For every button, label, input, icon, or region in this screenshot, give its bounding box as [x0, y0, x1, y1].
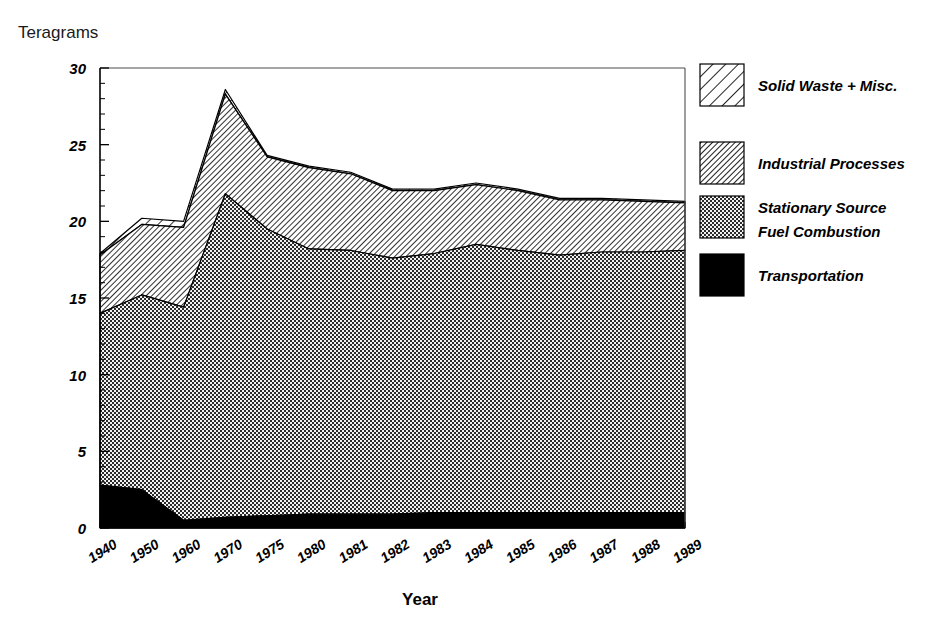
y-tick-label: 25: [68, 137, 86, 154]
x-tick-label: 1989: [670, 536, 705, 566]
x-tick-label: 1985: [503, 536, 538, 566]
x-tick-label: 1984: [461, 536, 496, 566]
x-axis-title: Year: [402, 590, 438, 609]
x-tick-label: 1970: [210, 536, 245, 566]
x-tick-group: 1950: [127, 536, 162, 566]
x-tick-label: 1987: [586, 535, 622, 566]
y-tick-label: 15: [69, 290, 86, 307]
legend-label: Stationary Source: [758, 199, 886, 216]
x-tick-label: 1975: [252, 536, 287, 566]
x-tick-label: 1983: [419, 536, 454, 566]
x-tick-group: 1987: [586, 535, 622, 566]
y-tick-label: 30: [69, 60, 86, 77]
legend-label-line2: Fuel Combustion: [758, 223, 881, 240]
legend-item: Stationary SourceFuel Combustion: [700, 196, 886, 240]
legend-swatch-wide-hatch: [700, 64, 744, 106]
y-tick-label: 10: [69, 367, 86, 384]
x-tick-label: 1988: [628, 536, 663, 566]
legend-swatch-diagonal-hatch: [700, 142, 744, 184]
legend-item: Transportation: [700, 254, 864, 296]
x-tick-group: 1983: [419, 536, 454, 566]
x-tick-group: 1989: [670, 536, 705, 566]
x-tick-group: 1986: [545, 536, 580, 566]
y-tick-label: 5: [78, 443, 87, 460]
stacked-area-chart: Teragrams 051015202530 19401950196019701…: [0, 0, 933, 636]
x-tick-label: 1986: [545, 536, 580, 566]
x-tick-label: 1981: [336, 536, 371, 566]
x-tick-group: 1960: [168, 536, 203, 566]
x-tick-label: 1980: [294, 536, 329, 566]
x-tick-group: 1988: [628, 536, 663, 566]
legend-swatch-solid-black: [700, 254, 744, 296]
x-tick-group: 1970: [210, 536, 245, 566]
x-tick-label: 1950: [127, 536, 162, 566]
x-tick-group: 1981: [336, 536, 371, 566]
x-tick-label: 1982: [377, 536, 412, 566]
legend-item: Industrial Processes: [700, 142, 905, 184]
x-tick-group: 1984: [461, 536, 496, 566]
x-tick-group: 1940: [85, 536, 120, 566]
x-tick-group: 1982: [377, 536, 412, 566]
legend: Solid Waste + Misc.Industrial ProcessesS…: [700, 64, 905, 296]
legend-label: Solid Waste + Misc.: [758, 77, 897, 94]
y-tick-label: 0: [78, 520, 87, 537]
legend-label: Industrial Processes: [758, 155, 905, 172]
x-tick-group: 1975: [252, 536, 287, 566]
legend-swatch-checker-dark: [700, 196, 744, 238]
legend-item: Solid Waste + Misc.: [700, 64, 897, 106]
legend-label: Transportation: [758, 267, 864, 284]
x-tick-group: 1985: [503, 536, 538, 566]
x-tick-label: 1960: [168, 536, 203, 566]
y-tick-label: 20: [68, 213, 86, 230]
y-axis-title: Teragrams: [18, 23, 98, 42]
x-tick-group: 1980: [294, 536, 329, 566]
x-tick-label: 1940: [85, 536, 120, 566]
